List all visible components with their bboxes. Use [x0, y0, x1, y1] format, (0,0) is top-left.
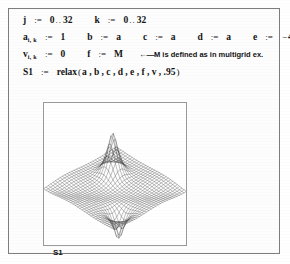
assign-operator-f: := — [97, 49, 107, 59]
subscript-a-indices: i, k — [28, 37, 37, 43]
assign-operator-k: := — [107, 15, 117, 25]
mesh-lines — [44, 133, 186, 238]
coefficient-e: 4 — [288, 32, 290, 42]
value-f: M — [114, 49, 123, 59]
relax-arguments: a , b , c , d , e , f , v , .95 — [82, 67, 175, 77]
mesh-line — [44, 147, 116, 189]
value-d: a — [226, 32, 231, 42]
assign-operator-b: := — [100, 32, 110, 42]
plot-caption-label: S1 — [53, 248, 63, 257]
surface-plot-box[interactable] — [43, 102, 187, 246]
assign-operator-j: := — [33, 15, 43, 25]
annotation-comment: M is defined as in multigrid ex. — [154, 50, 263, 59]
variable-j: j — [23, 15, 26, 25]
variable-d: d — [197, 32, 202, 42]
subscript-v-indices: i, k — [28, 54, 37, 60]
mesh-line — [116, 147, 186, 192]
screenshot-root: j:=0..32k:=0..32 ai, k:=1b:=ac:=ad:=ae:=… — [0, 0, 290, 264]
mesh-line — [81, 167, 151, 209]
left-arrow-icon: ←— — [139, 50, 154, 59]
math-line-range-definitions[interactable]: j:=0..32k:=0..32 — [23, 15, 146, 25]
variable-e: e — [253, 32, 257, 42]
assign-operator-d: := — [210, 32, 220, 42]
mesh-line — [46, 148, 119, 190]
mesh-line — [96, 178, 169, 229]
function-name-relax: relax — [57, 67, 77, 77]
mesh-line — [114, 148, 184, 193]
value-c: a — [171, 32, 176, 42]
assign-operator-s1: := — [40, 67, 50, 77]
surface-plot-wireframe — [44, 103, 186, 245]
range-dots-k: .. — [128, 15, 137, 25]
assign-operator-e: := — [264, 32, 274, 42]
assign-operator-v: := — [44, 49, 54, 59]
variable-k: k — [95, 15, 100, 25]
value-v: 0 — [61, 49, 66, 59]
variable-s1: S1 — [23, 67, 33, 77]
mesh-line — [75, 167, 148, 206]
range-dots-j: .. — [55, 15, 64, 25]
value-a: 1 — [61, 32, 66, 42]
assign-operator-c: := — [154, 32, 164, 42]
close-paren: ) — [175, 67, 180, 77]
j-range-end: 32 — [63, 15, 73, 25]
variable-f: f — [87, 49, 90, 59]
mesh-line — [48, 150, 121, 192]
minus-sign-e: − — [281, 32, 288, 42]
math-region: j:=0..32k:=0..32 ai, k:=1b:=ac:=ad:=ae:=… — [15, 14, 277, 92]
mesh-line — [84, 166, 154, 208]
value-b: a — [116, 32, 121, 42]
k-range-end: 32 — [137, 15, 147, 25]
document-frame: j:=0..32k:=0..32 ai, k:=1b:=ac:=ad:=ae:=… — [8, 8, 280, 254]
j-range-start: 0 — [50, 15, 55, 25]
assign-operator-a: := — [44, 32, 54, 42]
variable-c: c — [143, 32, 147, 42]
mesh-line — [44, 189, 114, 229]
mesh-line — [107, 153, 177, 197]
math-line-coefficients[interactable]: ai, k:=1b:=ac:=ad:=ae:=−4·a — [23, 32, 290, 43]
math-line-relax-call[interactable]: S1:=relax(a , b , c , d , e , f , v , .9… — [23, 67, 180, 77]
variable-b: b — [87, 32, 92, 42]
math-line-initial-conditions[interactable]: vi, k:=0f:=M←—M is defined as in multigr… — [23, 49, 263, 60]
